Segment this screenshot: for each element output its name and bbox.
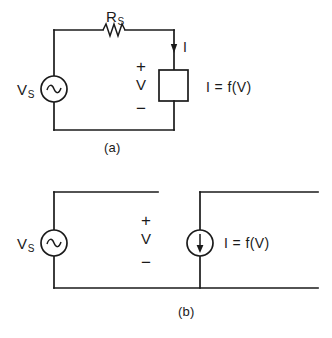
source-label-b-letter: V [17,235,27,252]
source-label-a: VS [17,82,34,97]
polarity-plus-b: + [141,212,151,228]
source-label-b-subscript: S [28,243,35,254]
polarity-minus-a: − [136,100,146,114]
resistor-label-a: RS [106,9,124,24]
current-arrow-icon-a [171,44,177,53]
voltage-label-a: V [136,77,146,95]
polarity-plus-a: + [136,58,146,74]
voltage-polarity-b: + V − [139,212,153,268]
resistor-label-a-letter: R [106,8,117,25]
resistor-label-a-subscript: S [118,16,125,27]
load-equation-b: I = f(V) [224,236,270,250]
caption-b: (b) [178,305,195,318]
voltage-label-b: V [141,231,151,249]
source-label-b: VS [17,236,34,251]
current-label-a: I [183,40,187,54]
polarity-minus-b: − [141,254,151,268]
voltage-polarity-a: + V − [134,58,148,114]
source-label-a-letter: V [17,81,27,98]
caption-a: (a) [104,141,121,154]
source-label-a-subscript: S [28,89,35,100]
circuit-svg [0,0,332,338]
circuit-figure: VS RS I + V − I = f(V) (a) VS + V − I = … [0,0,332,338]
nonlinear-load-block-a [159,70,188,101]
diagram-b-group [41,192,318,288]
diagram-a-group [41,24,188,130]
load-equation-a: I = f(V) [206,80,252,94]
